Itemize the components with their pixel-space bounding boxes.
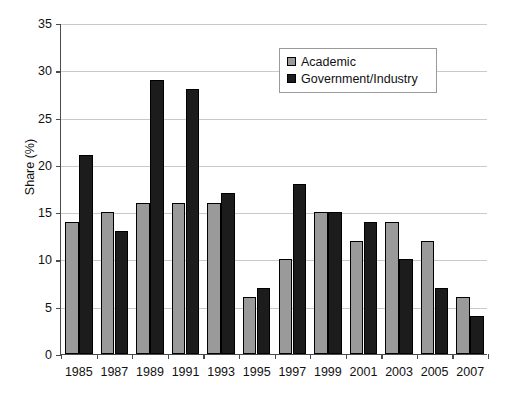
bar-1999-government-industry	[328, 212, 342, 354]
x-tick-label-1987: 1987	[100, 365, 128, 379]
x-tick-mark	[381, 354, 382, 359]
bar-group	[168, 24, 204, 354]
y-tick-label: 10	[38, 253, 52, 267]
x-tick-label-1997: 1997	[278, 365, 306, 379]
bar-1989-academic	[136, 203, 150, 354]
x-tick-mark	[203, 354, 204, 359]
bar-1989-government-industry	[150, 80, 164, 354]
bar-group	[452, 24, 488, 354]
x-tick-mark	[346, 354, 347, 359]
x-tick-label-1985: 1985	[65, 365, 93, 379]
y-tick-label: 20	[38, 159, 52, 173]
bar-2001-government-industry	[364, 222, 378, 354]
bar-1995-government-industry	[257, 288, 271, 354]
x-tick-label-1993: 1993	[207, 365, 235, 379]
bar-1993-academic	[207, 203, 221, 354]
x-tick-label-1999: 1999	[314, 365, 342, 379]
y-tick-label: 25	[38, 112, 52, 126]
bar-2005-government-industry	[435, 288, 449, 354]
y-tick-label: 0	[45, 348, 52, 362]
x-tick-label-1995: 1995	[243, 365, 271, 379]
x-tick-label-2005: 2005	[421, 365, 449, 379]
legend-entry-government-industry: Government/Industry	[287, 70, 429, 87]
bar-1997-government-industry	[293, 184, 307, 354]
x-tick-mark	[132, 354, 133, 359]
academic-swatch-icon	[287, 57, 296, 66]
x-tick-mark	[310, 354, 311, 359]
bar-1999-academic	[314, 212, 328, 354]
bar-2005-academic	[421, 241, 435, 354]
y-axis-title: Share (%)	[23, 107, 37, 227]
bar-1991-academic	[172, 203, 186, 354]
y-tick-label: 30	[38, 64, 52, 78]
chart-legend: Academic Government/Industry	[279, 48, 437, 93]
bar-1991-government-industry	[186, 89, 200, 354]
x-tick-mark	[168, 354, 169, 359]
bar-2003-academic	[385, 222, 399, 354]
bar-1985-government-industry	[79, 155, 93, 354]
x-tick-label-1989: 1989	[136, 365, 164, 379]
bar-2007-academic	[456, 297, 470, 354]
x-tick-mark	[452, 354, 453, 359]
y-tick-label: 5	[45, 301, 52, 315]
bar-1987-academic	[101, 212, 115, 354]
legend-label-government-industry: Government/Industry	[301, 72, 418, 86]
bar-group	[239, 24, 275, 354]
bar-1995-academic	[243, 297, 257, 354]
bar-1993-government-industry	[221, 193, 235, 354]
x-tick-label-2007: 2007	[456, 365, 484, 379]
x-tick-mark	[239, 354, 240, 359]
bar-group	[132, 24, 168, 354]
bar-chart-figure: Share (%) 05101520253035 198519871989199…	[0, 0, 507, 402]
x-tick-mark	[488, 354, 489, 359]
legend-entry-academic: Academic	[287, 53, 429, 70]
x-tick-label-2001: 2001	[350, 365, 378, 379]
bar-group	[97, 24, 133, 354]
x-tick-mark	[417, 354, 418, 359]
y-tick-label: 35	[38, 17, 52, 31]
x-tick-label-1991: 1991	[172, 365, 200, 379]
x-tick-mark	[275, 354, 276, 359]
bar-1997-academic	[279, 259, 293, 354]
bar-group	[203, 24, 239, 354]
legend-label-academic: Academic	[301, 55, 356, 69]
government-industry-swatch-icon	[287, 74, 296, 83]
bar-2001-academic	[350, 241, 364, 354]
bar-2003-government-industry	[399, 259, 413, 354]
y-tick-label: 15	[38, 206, 52, 220]
x-tick-mark	[97, 354, 98, 359]
bar-1985-academic	[65, 222, 79, 354]
bar-1987-government-industry	[115, 231, 129, 354]
x-tick-mark	[61, 354, 62, 359]
bar-2007-government-industry	[470, 316, 484, 354]
x-tick-label-2003: 2003	[385, 365, 413, 379]
bar-group	[61, 24, 97, 354]
